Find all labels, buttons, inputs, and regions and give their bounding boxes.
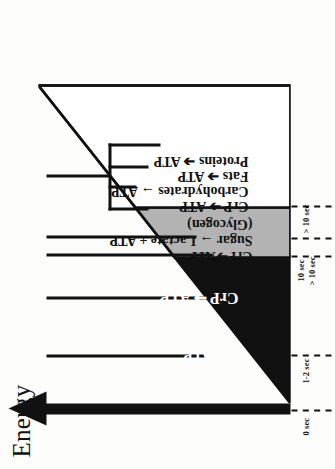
time-label-1-2sec: 1-2 sec bbox=[300, 358, 310, 383]
aerobic-bracket-crossbar bbox=[108, 143, 111, 210]
tick-line-0sec bbox=[291, 409, 331, 411]
tick-line-1-2sec bbox=[291, 354, 331, 356]
reaction-anaerobic-2: Sugar → Lactate + ATP bbox=[109, 232, 252, 247]
reaction-anaerobic-3: (Glycogen) bbox=[187, 216, 252, 231]
time-label-0sec: 0 sec bbox=[300, 417, 310, 435]
aerobic-bracket-leg-3 bbox=[108, 165, 148, 168]
tick-line-gt10sec-b bbox=[291, 205, 331, 207]
stem-anaerobic-1 bbox=[46, 253, 212, 256]
aerobic-bracket-leg-1 bbox=[108, 207, 148, 210]
reaction-aerobic-4: Proteins ➔ ATP bbox=[153, 153, 248, 168]
reaction-aerobic-2: Carbohydrates → ATP bbox=[111, 183, 248, 198]
reaction-cellular-atp: ATP bbox=[183, 347, 212, 364]
reaction-immediate: CrP ➔ ATP bbox=[160, 288, 238, 306]
aerobic-bracket-leg-4 bbox=[108, 143, 160, 146]
stem-cellular-atp bbox=[46, 354, 204, 357]
time-label-10sec: 10 sec bbox=[295, 259, 305, 281]
stem-aerobic-trunk bbox=[46, 174, 110, 177]
energy-arrow-shaft bbox=[40, 403, 290, 414]
reaction-aerobic-1: CrP ➔ ATP bbox=[179, 198, 248, 213]
time-label-gt10sec-aerobic: > 10 sec bbox=[300, 204, 310, 233]
rotated-figure-canvas: Energy 0 sec 1-2 sec 10 sec > 10 sec > 1… bbox=[0, 0, 335, 469]
reaction-aerobic-3: Fats ➔ ATP bbox=[177, 168, 248, 183]
energy-systems-diagram: Energy 0 sec 1-2 sec 10 sec > 10 sec > 1… bbox=[0, 0, 335, 469]
tick-line-gt10sec-a bbox=[291, 237, 331, 239]
reaction-anaerobic-1: CrP➔ATP bbox=[188, 248, 252, 263]
time-label-gt10sec-anaerobic: > 10 sec bbox=[306, 256, 316, 285]
